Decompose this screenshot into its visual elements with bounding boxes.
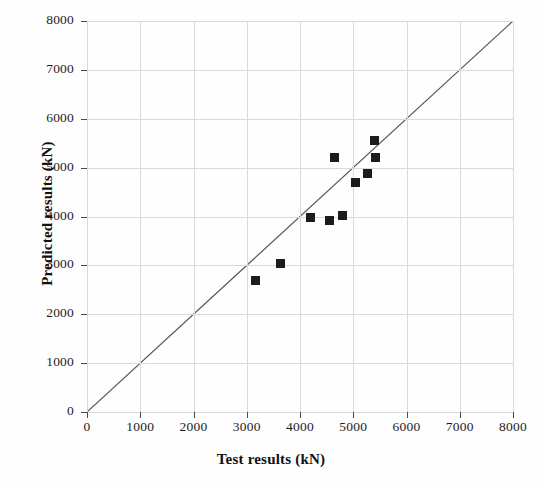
- y-axis-tick: [81, 265, 87, 266]
- y-axis-tick-label: 3000: [22, 256, 74, 272]
- plot-area: [87, 21, 513, 412]
- x-axis-tick: [140, 412, 141, 418]
- gridline-horizontal: [87, 168, 513, 169]
- gridline-horizontal: [87, 119, 513, 120]
- y-axis-tick: [81, 363, 87, 364]
- y-axis-tick-label: 6000: [22, 110, 74, 126]
- data-point-marker: [370, 136, 379, 145]
- y-axis-tick: [81, 70, 87, 71]
- gridline-horizontal: [87, 70, 513, 71]
- y-axis-tick: [81, 21, 87, 22]
- x-axis-tick-label: 5000: [323, 419, 383, 435]
- gridline-horizontal: [87, 21, 513, 22]
- x-axis-tick-label: 7000: [430, 419, 490, 435]
- x-axis-tick: [353, 412, 354, 418]
- x-axis-tick-label: 2000: [164, 419, 224, 435]
- gridline-horizontal: [87, 363, 513, 364]
- x-axis-tick-label: 4000: [270, 419, 330, 435]
- x-axis-tick-label: 0: [57, 419, 117, 435]
- x-axis-tick: [247, 412, 248, 418]
- data-point-marker: [306, 213, 315, 222]
- y-axis-tick: [81, 217, 87, 218]
- y-axis-tick-label: 0: [22, 403, 74, 419]
- x-axis-tick: [407, 412, 408, 418]
- gridline-horizontal: [87, 217, 513, 218]
- y-axis-tick: [81, 168, 87, 169]
- x-axis-title: Test results (kN): [0, 451, 542, 468]
- y-axis-tick-label: 8000: [22, 12, 74, 28]
- x-axis-tick: [460, 412, 461, 418]
- y-axis-tick-label: 5000: [22, 159, 74, 175]
- data-point-marker: [330, 153, 339, 162]
- gridline-vertical: [513, 21, 514, 412]
- data-point-marker: [276, 259, 285, 268]
- x-axis-tick-label: 8000: [483, 419, 542, 435]
- x-axis-tick: [513, 412, 514, 418]
- x-axis-tick-label: 3000: [217, 419, 277, 435]
- y-axis-tick-label: 4000: [22, 208, 74, 224]
- data-point-marker: [371, 153, 380, 162]
- y-axis-tick-label: 2000: [22, 305, 74, 321]
- data-point-marker: [363, 169, 372, 178]
- scatter-chart: Predicted results (kN) Test results (kN)…: [0, 0, 542, 486]
- x-axis-tick: [194, 412, 195, 418]
- x-axis-tick: [300, 412, 301, 418]
- data-point-marker: [338, 211, 347, 220]
- y-axis-tick: [81, 314, 87, 315]
- x-axis-tick-label: 6000: [377, 419, 437, 435]
- data-point-marker: [251, 276, 260, 285]
- x-axis-tick: [87, 412, 88, 418]
- data-point-marker: [351, 178, 360, 187]
- x-axis-tick-label: 1000: [110, 419, 170, 435]
- y-axis-line: [0, 0, 2, 395]
- y-axis-tick-label: 7000: [22, 61, 74, 77]
- y-axis-tick: [81, 119, 87, 120]
- data-point-marker: [325, 216, 334, 225]
- gridline-horizontal: [87, 314, 513, 315]
- y-axis-tick-label: 1000: [22, 354, 74, 370]
- gridline-horizontal: [87, 265, 513, 266]
